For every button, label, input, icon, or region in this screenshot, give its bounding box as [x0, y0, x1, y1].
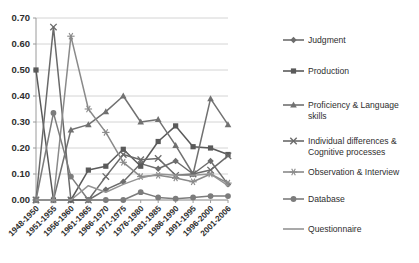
y-tick-label: 0.30 — [12, 116, 31, 127]
series-group — [32, 24, 231, 203]
data-point — [189, 179, 196, 185]
y-tick-label: 0.00 — [12, 194, 31, 205]
legend-label: skills — [308, 111, 327, 121]
legend-item-proficiency-language-skills[interactable]: Proficiency & Languageskills — [283, 100, 399, 121]
legend-label: Observation & Interview — [308, 167, 400, 177]
data-point — [155, 166, 161, 172]
y-tick-label: 0.60 — [12, 38, 31, 49]
legend-label: Individual differences & — [308, 136, 397, 146]
data-point — [225, 193, 231, 199]
data-point — [155, 195, 161, 201]
legend-marker — [290, 169, 297, 175]
x-axis-ticks: 1948-19501951-19551956-19601961-19651966… — [7, 200, 233, 238]
data-point — [51, 110, 57, 116]
legend-marker — [291, 196, 297, 202]
data-point — [120, 197, 126, 203]
data-point — [138, 164, 143, 169]
data-point — [190, 195, 196, 201]
data-point — [138, 189, 144, 195]
legend-item-individual-differences-cognitive-processes[interactable]: Individual differences &Cognitive proces… — [283, 136, 397, 157]
legend: JudgmentProductionProficiency & Language… — [283, 35, 400, 234]
data-point — [208, 145, 213, 150]
data-point — [156, 139, 161, 144]
y-tick-label: 0.70 — [12, 12, 31, 23]
legend-label: Cognitive processes — [308, 147, 385, 157]
chart-canvas: 0.000.100.200.300.400.500.600.701948-195… — [0, 0, 419, 263]
y-tick-label: 0.50 — [12, 64, 31, 75]
data-point — [103, 164, 108, 169]
legend-item-database[interactable]: Database — [283, 194, 345, 204]
data-point — [121, 147, 126, 152]
y-tick-label: 0.10 — [12, 168, 31, 179]
legend-item-production[interactable]: Production — [283, 66, 349, 76]
data-point — [173, 123, 178, 128]
data-point — [33, 67, 38, 72]
series-observation-interview — [32, 33, 231, 203]
legend-item-questionnaire[interactable]: Questionnaire — [283, 224, 362, 234]
y-tick-label: 0.40 — [12, 90, 31, 101]
legend-marker — [291, 68, 296, 73]
legend-label: Proficiency & Language — [308, 100, 399, 110]
legend-item-observation-interview[interactable]: Observation & Interview — [283, 167, 400, 177]
data-point — [173, 196, 179, 202]
legend-item-judgment[interactable]: Judgment — [283, 35, 346, 45]
data-point — [190, 144, 195, 149]
legend-label: Database — [308, 194, 345, 204]
data-point — [208, 193, 214, 199]
legend-marker — [290, 37, 296, 43]
legend-label: Questionnaire — [308, 224, 362, 234]
legend-label: Judgment — [308, 35, 346, 45]
y-tick-label: 0.20 — [12, 142, 31, 153]
data-point — [86, 168, 91, 173]
series-production — [33, 67, 230, 202]
y-axis-ticks: 0.000.100.200.300.400.500.600.70 — [12, 12, 37, 205]
line-chart: 0.000.100.200.300.400.500.600.701948-195… — [0, 0, 419, 263]
data-point — [68, 174, 74, 180]
data-point — [85, 197, 91, 203]
legend-label: Production — [308, 66, 349, 76]
data-point — [103, 197, 109, 203]
